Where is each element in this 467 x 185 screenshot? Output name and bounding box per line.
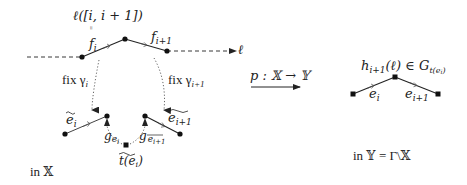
left-space-label: in 𝕏 (30, 164, 54, 179)
vertex-end (164, 48, 169, 53)
quotient-vertex-left (351, 92, 356, 97)
equals-sign: = (87, 26, 95, 30)
right-space-label: in 𝕐 = Γ\𝕏 (353, 148, 412, 163)
left-panel-lifts: ei ei+1 gei gei+1 t(ei) in 𝕏 (30, 110, 192, 180)
right-panel-quotient: hi+1(ℓ) ∈ Gt(ei) ei ei+1 in 𝕐 = Γ\𝕏 (351, 58, 446, 163)
g-e-i-arrowhead-icon (104, 118, 110, 126)
lift-vertex-1 (62, 131, 67, 136)
lift-edge-e-i1-direction-icon (158, 123, 165, 128)
vertex-start (79, 54, 84, 59)
lift-e-i-label: ei (66, 112, 77, 129)
projection-label: p : 𝕏 → 𝕐 (250, 68, 312, 83)
fix-arc-left (92, 60, 99, 110)
vertex-t-e-i-square (124, 143, 129, 148)
lift-e-i1-label: ei+1 (168, 110, 192, 127)
lift-vertex-4 (177, 131, 182, 136)
interval-label: ℓ([i, i + 1]) (73, 8, 143, 23)
quotient-graph-diagram: ℓ ℓ([i, i + 1]) = fi fi+1 fix γi fix γi+… (0, 0, 467, 185)
lift-edge-e-i-direction-icon (83, 122, 90, 127)
vertex-middle (122, 36, 127, 41)
vertex-group-label: hi+1(ℓ) ∈ Gt(ei) (361, 58, 446, 75)
projection-map: p : 𝕏 → 𝕐 (250, 68, 312, 87)
left-panel-geodesic: ℓ ℓ([i, i + 1]) = fi fi+1 fix γi fix γi+… (27, 8, 244, 110)
g-e-i-label: gei (104, 129, 119, 146)
geodesic-label: ℓ (238, 42, 244, 57)
fix-gamma-i1-label: fix γi+1 (168, 72, 205, 89)
fix-gamma-i-label: fix γi (62, 72, 88, 89)
edge-f-i1-label: fi+1 (150, 29, 172, 46)
g-e-i1-arrowhead-icon (142, 118, 148, 126)
quotient-edge-e-i-label: ei (369, 86, 380, 103)
vertex-t-e-i-label: t(ei) (119, 154, 143, 169)
lift-vertex-3 (142, 113, 147, 118)
lift-vertex-2 (104, 113, 109, 118)
quotient-vertex-middle (393, 75, 398, 80)
quotient-vertex-right (436, 92, 441, 97)
edge-f-i-label: fi (88, 36, 97, 53)
g-e-i1-label: gei+1 (139, 129, 166, 146)
edge-f-i1-direction-icon (140, 42, 147, 46)
fix-arc-right (154, 58, 165, 110)
